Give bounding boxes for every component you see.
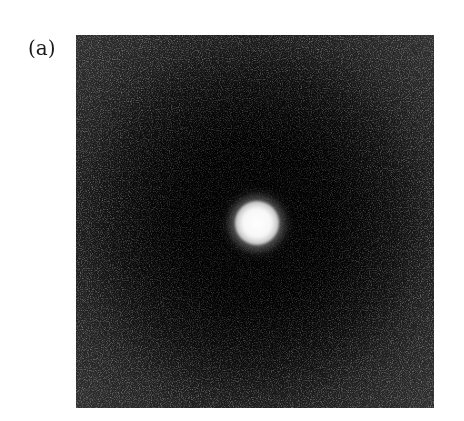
microscopy-image: [76, 35, 434, 408]
panel-label: (a): [28, 34, 56, 62]
bright-spot: [235, 201, 279, 245]
